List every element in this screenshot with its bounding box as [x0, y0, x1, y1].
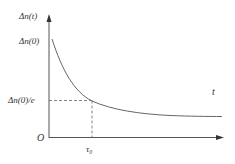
origin-label: O — [37, 132, 44, 143]
x-axis-arrow-icon — [216, 135, 224, 140]
decay-curve — [52, 39, 222, 117]
decay-diagram — [0, 0, 235, 164]
y-axis-label: Δn(t) — [19, 11, 37, 21]
x-tick-tau-label: τ₀ — [86, 144, 92, 154]
y-axis-arrow-icon — [47, 14, 52, 22]
y-tick-e-label: Δn(0)/e — [8, 95, 35, 105]
y-tick-initial-label: Δn(0) — [19, 36, 39, 46]
x-axis-label: t — [212, 86, 215, 97]
